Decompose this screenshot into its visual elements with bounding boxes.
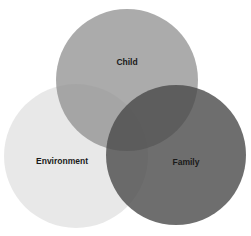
circle-family	[106, 85, 246, 225]
label-child: Child	[116, 57, 137, 67]
venn-circles	[4, 9, 246, 228]
label-environment: Environment	[36, 156, 88, 166]
venn-diagram: Child Environment Family	[0, 0, 251, 236]
label-family: Family	[173, 157, 200, 167]
